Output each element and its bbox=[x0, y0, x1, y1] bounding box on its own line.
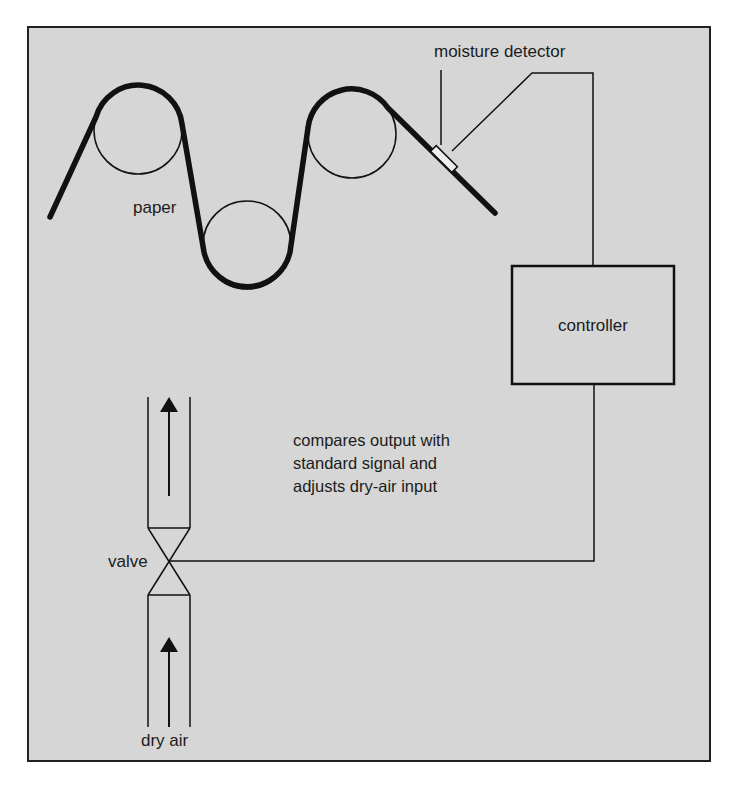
valve-label: valve bbox=[108, 552, 148, 571]
dry-air-label: dry air bbox=[141, 731, 189, 750]
paper-label: paper bbox=[133, 198, 177, 217]
description-line-2: standard signal and bbox=[293, 454, 437, 472]
moisture-detector-label: moisture detector bbox=[434, 42, 566, 61]
description-line-3: adjusts dry-air input bbox=[293, 477, 437, 495]
diagram-panel bbox=[28, 27, 710, 761]
controller-label: controller bbox=[558, 316, 628, 335]
description-line-1: compares output with bbox=[293, 431, 450, 449]
moisture-control-diagram: moisture detector paper controller compa… bbox=[0, 0, 732, 793]
